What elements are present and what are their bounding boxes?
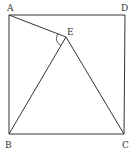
geometry-diagram: A D E B C [0, 0, 135, 153]
label-d: D [121, 3, 128, 13]
label-e: E [67, 27, 74, 37]
label-b: B [5, 140, 12, 150]
label-c: C [122, 140, 129, 150]
segment-eb [9, 37, 66, 134]
segment-ec [66, 37, 124, 134]
angle-mark-e [56, 34, 61, 46]
segment-ae [9, 15, 66, 37]
label-a: A [6, 3, 14, 13]
